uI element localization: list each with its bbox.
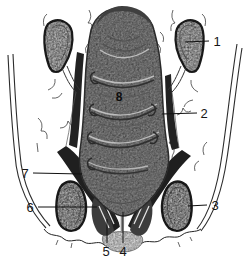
callout-1-label: 1 bbox=[213, 34, 220, 49]
callout-6-label: 6 bbox=[26, 200, 33, 215]
callout-2-label: 2 bbox=[200, 106, 207, 121]
callout-8-label: 8 bbox=[116, 90, 123, 104]
callout-8: 8 bbox=[116, 90, 123, 104]
figure-canvas: 1 2 3 4 5 6 7 8 bbox=[0, 0, 249, 260]
anatomical-figure: 1 2 3 4 5 6 7 8 bbox=[0, 0, 249, 260]
bottom-right-bone bbox=[162, 181, 192, 230]
bottom-left-bone bbox=[56, 181, 86, 230]
callout-7-label: 7 bbox=[21, 166, 28, 181]
callout-5-label: 5 bbox=[102, 244, 109, 259]
callout-3-label: 3 bbox=[211, 198, 218, 213]
callout-4-label: 4 bbox=[119, 244, 126, 259]
rectum bbox=[80, 6, 169, 216]
